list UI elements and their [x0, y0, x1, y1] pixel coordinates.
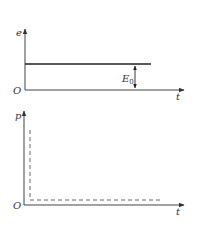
top-origin-label: O: [13, 85, 21, 96]
top-chart: e t O E0: [13, 27, 184, 102]
bottom-dashed-power-curve: [30, 130, 160, 200]
bottom-x-label: t: [176, 206, 181, 217]
top-y-label: e: [16, 27, 22, 38]
bottom-origin-label: O: [13, 200, 21, 211]
top-x-label: t: [176, 91, 181, 102]
bottom-y-label: p: [15, 110, 22, 121]
bottom-chart: p t O: [13, 110, 184, 217]
diagram-canvas: e t O E0 p t O: [0, 0, 203, 228]
top-level-label-sub: 0: [129, 78, 133, 86]
top-level-label: E0: [121, 73, 134, 86]
